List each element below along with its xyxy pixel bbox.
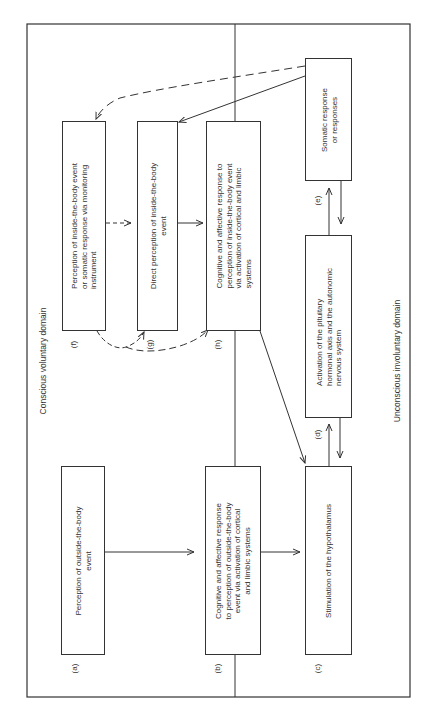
node-f-text: Perception of inside-the-body event or s… — [70, 163, 99, 289]
node-h-text: Cognitive and affective response to perc… — [215, 164, 253, 289]
node-g: Direct perception of inside-the-body eve… — [137, 121, 178, 331]
node-e-text: Somatic response or responses — [319, 87, 338, 151]
node-b: Cognitive and affective response to perc… — [205, 466, 261, 655]
node-h: Cognitive and affective response to perc… — [206, 121, 261, 331]
unconscious-domain-label: Unconscious involuntary domain — [392, 300, 402, 422]
node-a-label: (a) — [70, 664, 79, 674]
node-b-text: Cognitive and affective response to perc… — [214, 502, 252, 619]
node-h-label: (h) — [213, 340, 222, 350]
node-g-label: (g) — [145, 340, 154, 350]
node-c-text: Stimulation of the hypothalamus — [324, 504, 334, 618]
edge-f-h-curve — [126, 330, 208, 351]
node-g-text: Direct perception of inside-the-body eve… — [148, 163, 167, 289]
node-f: Perception of inside-the-body event or s… — [62, 121, 106, 331]
node-a: Perception of outside-the-body event — [61, 466, 105, 655]
edge-f-g-curve — [97, 331, 144, 348]
node-c-label: (c) — [313, 664, 322, 673]
node-c: Stimulation of the hypothalamus — [305, 466, 352, 655]
node-d-text: Activation of the pituitary hormonal axi… — [314, 268, 343, 386]
node-d: Activation of the pituitary hormonal axi… — [305, 235, 352, 418]
node-b-label: (b) — [213, 664, 222, 674]
edge-h-c — [260, 331, 305, 463]
node-f-label: (f) — [69, 341, 78, 349]
node-d-label: (d) — [313, 430, 322, 440]
edge-e-f — [96, 66, 305, 119]
node-e: Somatic response or responses — [305, 58, 352, 181]
conscious-domain-label: Conscious voluntary domain — [38, 308, 48, 415]
node-e-label: (e) — [313, 196, 322, 206]
node-a-text: Perception of outside-the-body event — [74, 506, 93, 615]
